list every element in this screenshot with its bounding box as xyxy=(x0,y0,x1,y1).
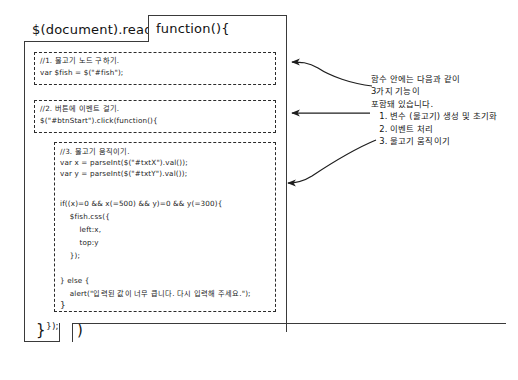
arrow-to-block-1 xyxy=(292,62,372,86)
annotation-arrows xyxy=(0,0,518,380)
arrow-to-block-3 xyxy=(288,140,376,183)
diagram-canvas: $(document).ready( function(){ } ) //1. … xyxy=(0,0,518,380)
